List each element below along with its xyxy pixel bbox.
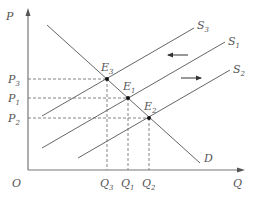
price-label-p1: P1 xyxy=(7,92,20,107)
supply-demand-diagram: P Q O P3 P1 P2 Q3 Q1 Q2 S3 S1 S2 D E3 E1… xyxy=(0,0,256,198)
x-axis-label: Q xyxy=(233,177,242,190)
origin-label: O xyxy=(12,177,21,190)
equilibrium-label-e2: E2 xyxy=(143,100,157,115)
y-axis-arrow-icon xyxy=(26,8,31,16)
quantity-label-q3: Q3 xyxy=(100,177,114,192)
quantity-label-q1: Q1 xyxy=(121,177,135,192)
supply-curve-s1 xyxy=(42,42,225,148)
supply-label-s1: S1 xyxy=(228,35,240,50)
x-axis-arrow-icon xyxy=(237,168,245,173)
point-e3 xyxy=(105,77,109,81)
equilibrium-label-e3: E3 xyxy=(100,61,114,76)
supply-label-s2: S2 xyxy=(233,63,246,78)
price-label-p2: P2 xyxy=(7,112,20,127)
equilibrium-label-e1: E1 xyxy=(122,80,136,95)
y-axis-label: P xyxy=(5,10,14,23)
point-e1 xyxy=(126,96,130,100)
price-label-p3: P3 xyxy=(7,73,20,88)
curves xyxy=(42,25,230,163)
point-e2 xyxy=(147,116,151,120)
quantity-label-q2: Q2 xyxy=(142,177,156,192)
supply-label-s3: S3 xyxy=(197,19,210,34)
demand-label-d: D xyxy=(203,152,213,165)
demand-curve-d xyxy=(47,25,200,163)
